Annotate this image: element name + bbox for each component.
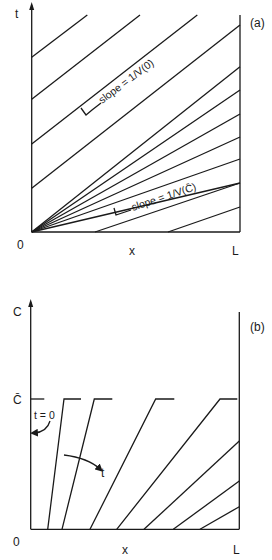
figure: slope = 1/V(0) slope = 1/V(C̄) t (a) 0 x… — [0, 0, 272, 560]
c-bar-label: C̄ — [13, 393, 22, 407]
t-axis-arrow-icon — [29, 2, 34, 10]
t0-pointer-arrow-icon — [34, 421, 50, 433]
panel-a-tag: (a) — [250, 16, 265, 30]
panel-b-tag: (b) — [250, 320, 265, 334]
slope-marker-icon — [81, 103, 101, 115]
L-label-b: L — [233, 543, 240, 557]
diagram-canvas: slope = 1/V(0) slope = 1/V(C̄) t (a) 0 x… — [0, 0, 272, 560]
x-axis-label-b: x — [122, 543, 128, 557]
origin-label-b: 0 — [13, 535, 20, 549]
origin-label-a: 0 — [17, 238, 24, 252]
x-axis-label-a: x — [129, 244, 135, 258]
time-direction-arrow-icon — [64, 455, 100, 469]
panel-b: t = 0 t C C̄ (b) 0 x L — [13, 299, 265, 557]
concentration-profiles — [48, 399, 240, 529]
panel-a: slope = 1/V(0) slope = 1/V(C̄) t (a) 0 x… — [15, 2, 265, 258]
L-label-a: L — [232, 244, 239, 258]
t-axis-label: t — [15, 7, 19, 21]
slope-label-bottom: slope = 1/V(C̄) — [130, 180, 198, 213]
c-axis-label: C — [13, 305, 22, 319]
characteristics-from-t-axis — [32, 15, 240, 188]
c-axis-arrow-icon — [28, 299, 33, 307]
t0-label: t = 0 — [34, 409, 55, 421]
slope-annotation-top: slope = 1/V(0) — [81, 56, 156, 115]
t-arrow-label: t — [101, 466, 105, 480]
